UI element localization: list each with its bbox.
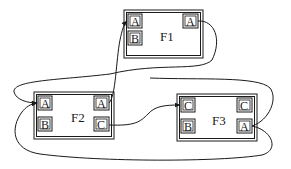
port-f2-a-right: A xyxy=(94,96,109,111)
port-label: A xyxy=(240,120,249,134)
port-f1-b: B xyxy=(128,31,142,46)
frame-f3: F3 C B C A xyxy=(177,94,257,141)
frame-label-f3: F3 xyxy=(212,113,226,128)
port-label: B xyxy=(184,120,192,134)
port-f2-c: C xyxy=(94,117,109,132)
port-label: A xyxy=(186,15,195,29)
port-f1-a-right: A xyxy=(183,14,198,29)
port-f2-a-left: A xyxy=(38,96,52,111)
port-label: C xyxy=(184,99,192,113)
frame-f2: F2 A B A C xyxy=(34,92,114,139)
port-label: A xyxy=(97,97,106,111)
port-label: A xyxy=(131,15,140,29)
diagram-canvas: F1 A B A F2 A B xyxy=(0,0,291,169)
port-f1-a-left: A xyxy=(128,14,142,29)
port-label: C xyxy=(240,99,248,113)
port-f3-b: B xyxy=(181,119,195,134)
frame-label-f1: F1 xyxy=(160,29,174,44)
frame-f1: F1 A B A xyxy=(124,10,203,58)
port-label: B xyxy=(131,32,139,46)
frame-label-f2: F2 xyxy=(71,110,85,125)
port-label: B xyxy=(41,118,49,132)
port-f2-b: B xyxy=(38,117,52,132)
port-f3-c-left: C xyxy=(181,98,195,113)
port-f3-c-right: C xyxy=(237,98,252,113)
port-label: A xyxy=(41,97,50,111)
port-f3-a: A xyxy=(237,119,252,134)
port-label: C xyxy=(97,118,105,132)
edge-f2c-to-f3c xyxy=(109,105,180,125)
